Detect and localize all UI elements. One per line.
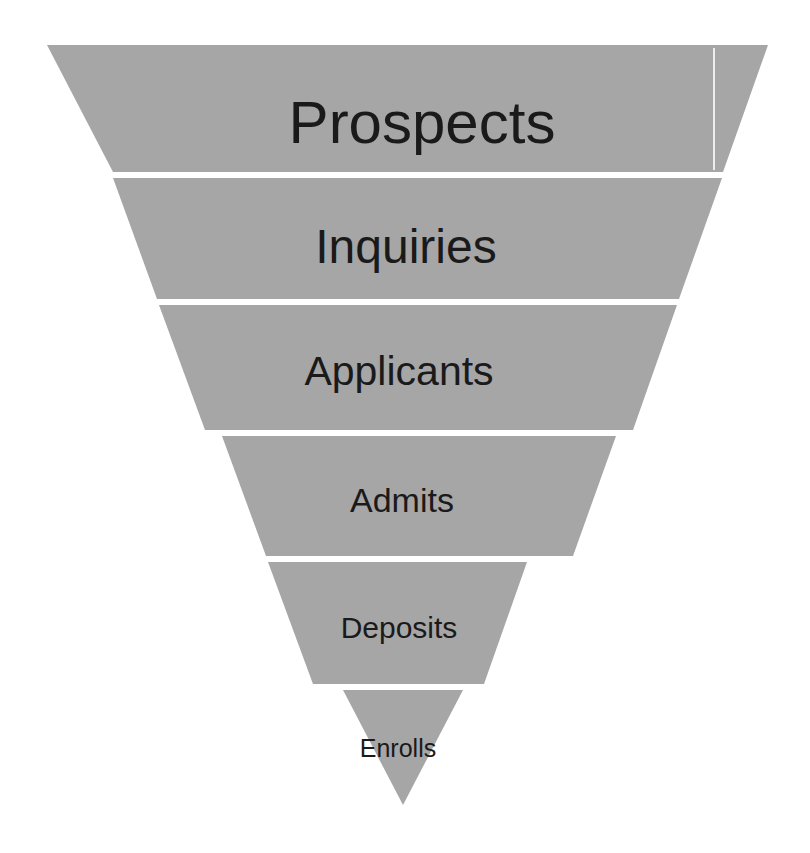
funnel-stage-inquiries[interactable]: Inquiries: [113, 178, 722, 299]
funnel-label-enrolls: Enrolls: [360, 734, 436, 762]
funnel-stage-applicants[interactable]: Applicants: [159, 305, 677, 430]
funnel-chart: Prospects Inquiries Applicants Admits De…: [0, 0, 810, 853]
funnel-stage-prospects[interactable]: Prospects: [47, 45, 768, 172]
funnel-label-admits: Admits: [350, 481, 454, 519]
funnel-label-prospects: Prospects: [289, 89, 556, 156]
funnel-stage-deposits[interactable]: Deposits: [268, 562, 527, 684]
funnel-label-inquiries: Inquiries: [315, 220, 496, 273]
funnel-label-deposits: Deposits: [341, 611, 458, 644]
funnel-stage-admits[interactable]: Admits: [222, 436, 616, 556]
funnel-label-applicants: Applicants: [304, 348, 493, 394]
funnel-diagram: Prospects Inquiries Applicants Admits De…: [0, 0, 810, 853]
